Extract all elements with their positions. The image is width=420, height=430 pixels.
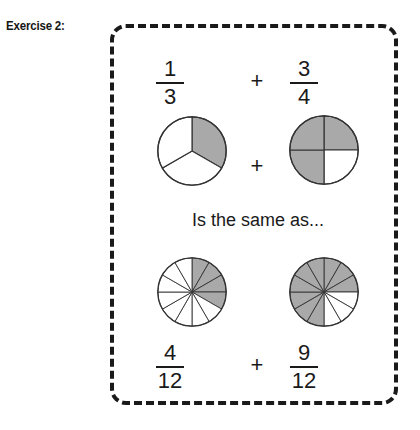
fraction-denominator: 4 xyxy=(277,85,331,108)
plus-sign-middle: + xyxy=(247,155,267,177)
plus-sign-bottom: + xyxy=(247,354,267,376)
pie-chart-one-third xyxy=(156,115,228,187)
pie-chart-three-quarters xyxy=(288,114,360,186)
fraction-numerator: 1 xyxy=(143,58,197,81)
same-as-text: Is the same as... xyxy=(114,210,402,231)
exercise-label: Exercise 2: xyxy=(6,19,65,33)
exercise-panel: 1 3 + 3 4 + Is the same as... 4 12 + 9 1… xyxy=(110,24,398,405)
fraction-label-top-left: 1 3 xyxy=(143,58,197,108)
plus-sign-top: + xyxy=(247,70,267,92)
pie-chart-four-twelfths xyxy=(156,256,228,328)
pie-chart-nine-twelfths xyxy=(288,256,360,328)
fraction-label-bottom-left: 4 12 xyxy=(143,342,197,392)
fraction-denominator: 12 xyxy=(277,369,331,392)
fraction-denominator: 3 xyxy=(143,85,197,108)
fraction-numerator: 4 xyxy=(143,342,197,365)
fraction-denominator: 12 xyxy=(143,369,197,392)
fraction-label-bottom-right: 9 12 xyxy=(277,342,331,392)
fraction-numerator: 9 xyxy=(277,342,331,365)
fraction-numerator: 3 xyxy=(277,58,331,81)
exercise-panel-content: 1 3 + 3 4 + Is the same as... 4 12 + 9 1… xyxy=(114,28,402,409)
fraction-label-top-right: 3 4 xyxy=(277,58,331,108)
